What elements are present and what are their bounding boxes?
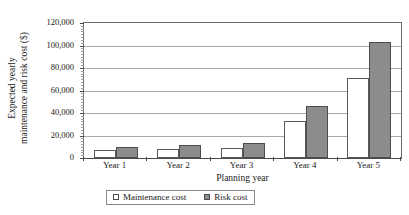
x-axis-category-label: Year 3 (230, 160, 253, 170)
y-axis-tick-label: 0 (70, 152, 74, 162)
y-axis-tick-label: 40,000 (51, 107, 74, 117)
bar-group (221, 23, 265, 158)
y-axis-tick-label: 20,000 (51, 130, 74, 140)
x-axis-category-labels: Year 1Year 2Year 3Year 4Year 5 (83, 160, 402, 174)
y-axis-tick-labels: 020,00040,00060,00080,000100,000120,000 (30, 0, 78, 175)
y-axis-title-line-1: Expected yearly (7, 32, 19, 144)
bar-risk-cost[interactable] (243, 143, 265, 158)
plot-area (83, 22, 402, 159)
x-axis-category-label: Year 4 (293, 160, 316, 170)
bar-group (94, 23, 138, 158)
bar-maintenance-cost[interactable] (284, 121, 306, 158)
x-axis-category-label: Year 5 (357, 160, 380, 170)
hollow-square-swatch-icon (113, 194, 119, 200)
x-axis-category-label: Year 1 (103, 160, 126, 170)
y-axis-tick-label: 120,000 (46, 17, 74, 27)
legend-entry-risk-cost: Risk cost (204, 192, 247, 202)
bar-risk-cost[interactable] (369, 42, 391, 158)
bar-groups (84, 23, 401, 158)
bar-risk-cost[interactable] (306, 106, 328, 158)
bar-group (284, 23, 328, 158)
y-axis-title-line-2: maintenance and risk cost ($) (18, 32, 30, 144)
y-axis-tick-label: 80,000 (51, 62, 74, 72)
bar-group (347, 23, 391, 158)
chart-legend: Maintenance cost Risk cost (106, 190, 255, 205)
x-axis-category-label: Year 2 (166, 160, 189, 170)
bar-group (157, 23, 201, 158)
legend-label-risk-cost: Risk cost (214, 192, 247, 202)
legend-entry-maintenance-cost: Maintenance cost (113, 192, 186, 202)
y-axis-tick-label: 100,000 (46, 40, 74, 50)
bar-chart-figure: Expected yearly maintenance and risk cos… (0, 0, 409, 215)
y-axis-tick-label: 60,000 (51, 85, 74, 95)
legend-label-maintenance-cost: Maintenance cost (123, 192, 186, 202)
bar-maintenance-cost[interactable] (347, 78, 369, 158)
filled-square-swatch-icon (204, 194, 210, 200)
x-axis-title: Planning year (83, 173, 402, 183)
